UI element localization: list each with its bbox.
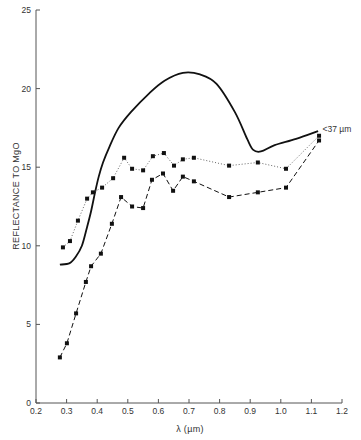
y-tick-label: 20 <box>22 84 32 94</box>
data-point-dashed <box>317 138 321 142</box>
data-point-dashed <box>141 206 145 210</box>
data-point-dashed <box>192 179 196 183</box>
size-annotation: <37 µm <box>323 124 352 134</box>
data-point-dashed <box>284 186 288 190</box>
data-point-dotted <box>141 168 145 172</box>
y-tick-label: 5 <box>26 319 31 329</box>
data-point-dotted <box>192 156 196 160</box>
data-point-dotted <box>61 245 65 249</box>
data-point-dashed <box>150 178 154 182</box>
data-point-dashed <box>74 311 78 315</box>
data-point-dashed <box>171 189 175 193</box>
y-tick-label: 25 <box>22 5 32 15</box>
x-tick-label: 0.8 <box>214 406 226 416</box>
data-point-dotted <box>130 167 134 171</box>
data-point-dotted <box>284 167 288 171</box>
x-axis-label: λ (µm) <box>176 424 203 434</box>
data-point-dotted <box>181 157 185 161</box>
x-tick-label: 0.9 <box>244 406 256 416</box>
data-point-dotted <box>162 151 166 155</box>
data-point-dashed <box>130 205 134 209</box>
data-point-dotted <box>100 186 104 190</box>
data-point-dashed <box>227 195 231 199</box>
data-point-dotted <box>317 134 321 138</box>
x-tick-label: 1.2 <box>336 406 348 416</box>
data-point-dashed <box>110 222 114 226</box>
data-point-dotted <box>172 164 176 168</box>
data-point-dashed <box>84 280 88 284</box>
x-tick-label: 0.2 <box>30 406 42 416</box>
data-point-dotted <box>85 197 89 201</box>
data-point-dashed <box>58 355 62 359</box>
x-tick-label: 1.0 <box>275 406 287 416</box>
y-tick-label: 10 <box>22 241 32 251</box>
data-point-dotted <box>227 164 231 168</box>
data-point-dotted <box>122 156 126 160</box>
data-point-dotted <box>68 239 72 243</box>
data-point-dotted <box>111 176 115 180</box>
series-line-dashed <box>60 140 319 357</box>
data-point-dashed <box>119 195 123 199</box>
x-tick-label: 0.6 <box>152 406 164 416</box>
series-line-dotted <box>63 136 319 248</box>
x-tick-label: 0.7 <box>183 406 195 416</box>
y-axis-label: REFLECTANCE TO MgO <box>11 142 21 249</box>
data-point-dashed <box>99 252 103 256</box>
data-point-dotted <box>151 154 155 158</box>
data-point-dashed <box>256 190 260 194</box>
data-point-dotted <box>91 190 95 194</box>
data-series <box>58 72 321 359</box>
x-tick-label: 0.3 <box>61 406 73 416</box>
x-tick-label: 0.4 <box>91 406 103 416</box>
series-line-solid <box>60 72 318 264</box>
data-point-dashed <box>181 175 185 179</box>
data-point-dashed <box>89 264 93 268</box>
x-tick-label: 1.1 <box>305 406 317 416</box>
data-point-dashed <box>65 341 69 345</box>
data-point-dotted <box>256 160 260 164</box>
axes: 05101520250.20.30.40.50.60.70.80.91.01.1… <box>22 5 349 416</box>
data-point-dotted <box>76 219 80 223</box>
y-tick-label: 15 <box>22 162 32 172</box>
reflectance-chart: 05101520250.20.30.40.50.60.70.80.91.01.1… <box>0 0 361 440</box>
x-tick-label: 0.5 <box>122 406 134 416</box>
data-point-dashed <box>161 171 165 175</box>
